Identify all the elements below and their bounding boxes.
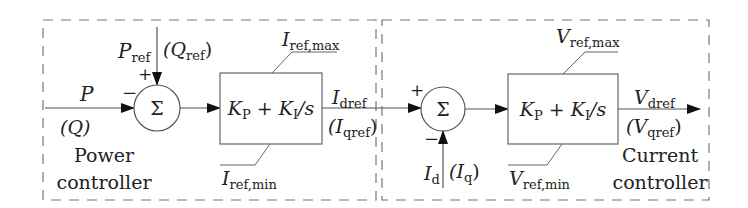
sum-symbol-1: Σ (150, 97, 163, 119)
limit-min-label-2: Vref,min (509, 167, 571, 192)
power-controller-title-line1: Power (74, 144, 135, 166)
power-controller-title-line2: controller (57, 171, 153, 193)
feedback-label-id: Id (423, 162, 440, 187)
sum-symbol-2: Σ (436, 98, 449, 120)
limit-min-leader-2 (508, 144, 562, 165)
feedback-label-iq: (Iq) (449, 160, 480, 185)
limit-max-leader-2 (563, 52, 618, 74)
pi-formula-2: KP + KI/s (519, 98, 607, 123)
limit-min-leader-1 (220, 144, 270, 165)
current-controller-title-line1: Current (622, 144, 698, 166)
minus-sign-2: − (424, 128, 439, 149)
control-block-diagram: Σ P (Q) − + Pref (Qref) KP + KI/s Iref,m… (0, 0, 748, 208)
output-label-iqref: (Iqref) (328, 115, 377, 140)
input-label-p: P (79, 82, 94, 106)
reference-label-pref: Pref (117, 39, 151, 65)
output-label-vqref: (Vqref) (626, 115, 682, 140)
minus-sign-1: − (122, 82, 137, 103)
limit-min-label-1: Iref,min (221, 167, 277, 192)
pi-formula-1: KP + KI/s (227, 97, 315, 122)
plus-sign-1: + (138, 64, 152, 84)
output-label-vdref: Vdref (634, 86, 676, 111)
limit-max-label-1: Iref,max (281, 28, 340, 53)
plus-sign-2: + (410, 80, 424, 100)
current-controller-title-line2: controller (613, 171, 709, 193)
limit-max-leader-1 (272, 52, 337, 73)
output-label-idref: Idref (331, 86, 368, 111)
input-label-q: (Q) (60, 116, 90, 138)
reference-label-qref: (Qref) (163, 38, 212, 63)
limit-max-label-2: Vref,max (556, 25, 620, 50)
